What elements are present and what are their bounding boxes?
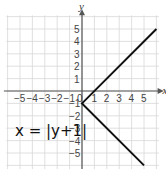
svg-text:5: 5	[74, 24, 80, 35]
svg-text:1: 1	[74, 74, 80, 85]
svg-text:−4: −4	[26, 93, 38, 104]
svg-text:−5: −5	[14, 93, 26, 104]
axes	[4, 9, 164, 169]
svg-text:5: 5	[141, 93, 147, 104]
equation-annotation: x = |y+1|	[15, 122, 87, 140]
svg-text:4: 4	[74, 36, 80, 47]
svg-text:−2: −2	[51, 93, 63, 104]
svg-text:2: 2	[104, 93, 110, 104]
svg-text:3: 3	[74, 49, 80, 60]
svg-text:−3: −3	[39, 93, 51, 104]
x-axis-label: x	[162, 84, 166, 96]
svg-text:−5: −5	[69, 148, 81, 159]
graph: −5−4−3−2−101234554321−1−2−3−4−5 x y x = …	[0, 0, 166, 182]
svg-text:4: 4	[129, 93, 135, 104]
y-axis-label: y	[78, 0, 84, 12]
svg-text:−1: −1	[69, 98, 81, 109]
svg-text:2: 2	[74, 61, 80, 72]
svg-text:3: 3	[116, 93, 122, 104]
svg-text:1: 1	[91, 93, 97, 104]
svg-text:−2: −2	[69, 111, 81, 122]
